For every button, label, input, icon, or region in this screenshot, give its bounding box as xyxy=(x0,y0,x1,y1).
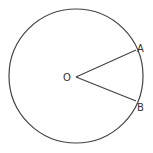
circle xyxy=(9,9,143,143)
label-point-b: B xyxy=(137,102,144,113)
circle-diagram: O A B xyxy=(0,0,153,153)
radius-ob xyxy=(76,77,136,101)
label-center-o: O xyxy=(63,72,71,83)
label-point-a: A xyxy=(137,43,144,54)
radius-oa xyxy=(76,50,136,77)
